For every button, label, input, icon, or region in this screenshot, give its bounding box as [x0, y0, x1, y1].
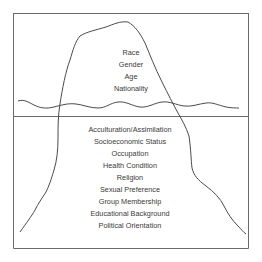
below-water-item: Educational Background: [0, 210, 261, 217]
waterline: [18, 100, 239, 108]
below-water-item: Health Condition: [0, 162, 261, 169]
below-water-item: Group Membership: [0, 198, 261, 205]
above-water-item: Race: [0, 49, 262, 56]
below-water-item: Religion: [0, 174, 261, 181]
below-water-item: Socioeconomic Status: [0, 138, 261, 145]
below-water-item: Political Orientation: [0, 222, 261, 229]
above-water-item: Nationality: [0, 85, 262, 92]
above-water-item: Age: [0, 73, 262, 80]
above-water-item: Gender: [0, 61, 262, 68]
below-water-item: Occupation: [0, 150, 261, 157]
below-water-item: Acculturation/Assimilation: [0, 126, 261, 133]
below-water-item: Sexual Preference: [0, 186, 261, 193]
